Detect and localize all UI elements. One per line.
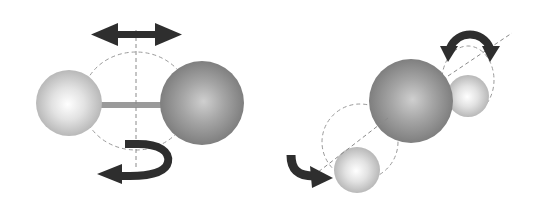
right-molecule xyxy=(291,33,512,193)
double-arrow-icon xyxy=(91,23,182,46)
large-atom xyxy=(160,61,244,145)
molecular-motion-diagram: Rotational and vibrational motions of mo… xyxy=(0,0,543,211)
upper-small-atom xyxy=(447,75,489,117)
diagram-svg xyxy=(0,0,543,211)
center-large-atom xyxy=(369,59,453,143)
upper-curved-arrow-icon xyxy=(440,35,500,63)
bond xyxy=(100,102,164,108)
left-molecule xyxy=(36,23,244,184)
small-atom xyxy=(36,70,102,136)
